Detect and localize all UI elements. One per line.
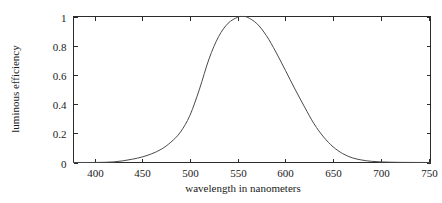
x-tick-label-650: 650 <box>325 167 342 179</box>
chart-figure: 400450500550600650700750 00.20.40.60.81 … <box>0 0 442 203</box>
x-axis-tick-labels: 400450500550600650700750 <box>87 167 438 179</box>
data-curve <box>74 16 431 162</box>
y-tick-label-0.2: 0.2 <box>53 128 67 140</box>
y-tick-label-0.6: 0.6 <box>53 70 67 82</box>
y-tick-label-0.4: 0.4 <box>53 99 67 111</box>
y-tick-label-1: 1 <box>61 12 67 24</box>
y-tick-label-0: 0 <box>61 158 67 170</box>
x-tick-label-600: 600 <box>277 167 294 179</box>
plot-frame <box>74 17 431 163</box>
x-tick-label-450: 450 <box>134 167 151 179</box>
x-axis-tick-marks <box>96 17 430 163</box>
y-tick-label-0.8: 0.8 <box>53 41 67 53</box>
y-axis-tick-labels: 00.20.40.60.81 <box>53 12 67 170</box>
x-tick-label-500: 500 <box>182 167 199 179</box>
y-axis-tick-marks <box>74 18 431 164</box>
y-axis-title: luminous efficiency <box>9 45 21 133</box>
x-tick-label-700: 700 <box>373 167 390 179</box>
x-tick-label-550: 550 <box>230 167 247 179</box>
luminous-efficiency-curve <box>74 16 431 162</box>
x-axis-title: wavelength in nanometers <box>185 182 300 194</box>
x-tick-label-750: 750 <box>421 167 438 179</box>
luminous-efficiency-chart: 400450500550600650700750 00.20.40.60.81 … <box>0 0 442 203</box>
x-tick-label-400: 400 <box>87 167 104 179</box>
